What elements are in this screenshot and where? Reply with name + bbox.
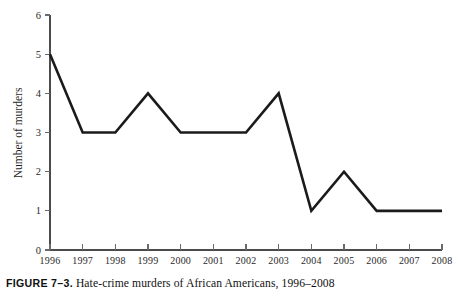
chart-plot-area: 0123456 19961997199819992000200120022003… xyxy=(0,0,458,272)
caption-text: Hate-crime murders of African Americans,… xyxy=(73,277,335,290)
x-axis-tick-label: 1999 xyxy=(138,255,159,266)
y-axis-title-group: Number of murders xyxy=(12,87,24,178)
x-axis-tick-label: 1998 xyxy=(105,255,126,266)
x-axis-tick-label: 2005 xyxy=(334,255,355,266)
figure-caption: FIGURE 7–3. Hate-crime murders of Africa… xyxy=(6,277,452,290)
y-axis-tick-label: 2 xyxy=(36,166,41,177)
x-axis-tick-label: 2003 xyxy=(268,255,289,266)
y-axis-tick-label: 3 xyxy=(36,127,41,138)
y-axis-tick-label: 1 xyxy=(36,205,41,216)
x-axis-tick-label: 1996 xyxy=(40,255,61,266)
x-axis-tick-label: 2007 xyxy=(399,255,420,266)
x-axis-tick-label: 2002 xyxy=(236,255,257,266)
y-axis-tick-labels: 0123456 xyxy=(36,10,42,256)
figure-container: 0123456 19961997199819992000200120022003… xyxy=(0,0,458,297)
x-axis-tick-label: 2008 xyxy=(432,255,453,266)
y-axis-ticks xyxy=(45,15,50,250)
x-axis-tick-label: 2006 xyxy=(366,255,387,266)
x-axis-tick-label: 1997 xyxy=(72,255,93,266)
x-axis-tick-label: 2000 xyxy=(170,255,191,266)
y-axis-title: Number of murders xyxy=(12,87,24,178)
y-axis-tick-label: 4 xyxy=(36,88,42,99)
data-series-line xyxy=(50,54,442,211)
x-axis-tick-labels: 1996199719981999200020012002200320042005… xyxy=(40,255,453,266)
x-axis-ticks xyxy=(50,244,442,250)
line-chart-svg: 0123456 19961997199819992000200120022003… xyxy=(0,0,458,272)
x-axis-tick-label: 2001 xyxy=(203,255,224,266)
y-axis-tick-label: 6 xyxy=(36,10,41,21)
y-axis-tick-label: 0 xyxy=(36,245,41,256)
x-axis-tick-label: 2004 xyxy=(301,255,322,266)
caption-prefix: FIGURE 7–3. xyxy=(6,277,73,289)
data-series-group xyxy=(50,54,442,211)
y-axis-tick-label: 5 xyxy=(36,49,41,60)
